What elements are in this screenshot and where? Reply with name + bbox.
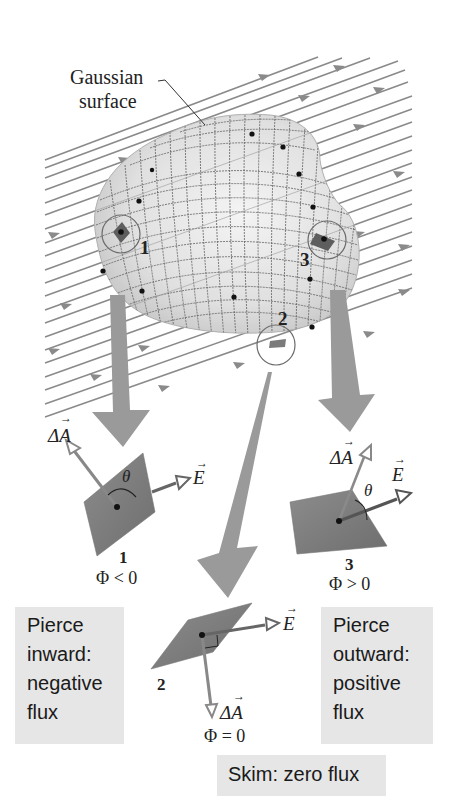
caption-pierce-inward: Pierce inward: negative flux [15, 607, 124, 744]
svg-text:→: → [343, 434, 355, 448]
caption-line: Skim: zero flux [228, 760, 386, 789]
caption-line: outward: [333, 640, 433, 669]
svg-text:→: → [233, 689, 245, 703]
inset-1-angle-label: θ [122, 467, 130, 486]
caption-line: flux [333, 698, 433, 727]
inset-2-area-vector-label: ΔA [219, 702, 243, 723]
caption-line: flux [27, 698, 124, 727]
inset-2 [151, 603, 279, 717]
caption-pierce-outward: Pierce outward: positive flux [321, 607, 433, 744]
inset-1-field-label: E [192, 467, 205, 488]
caption-skim-zero-flux: Skim: zero flux [217, 755, 386, 796]
surface-label-line1: Gaussian [70, 66, 143, 88]
inset-1-flux: Φ < 0 [96, 568, 137, 588]
inset-3-number: 3 [345, 555, 354, 574]
svg-text:→: → [196, 456, 208, 470]
region-3-label: 3 [300, 249, 310, 270]
svg-text:→: → [286, 601, 298, 615]
inset-1 [66, 440, 190, 556]
caption-line: Pierce [333, 611, 433, 640]
surface-label-line2: surface [79, 90, 137, 112]
inset-1-number: 1 [119, 548, 128, 567]
inset-2-field-label: E [282, 613, 295, 634]
caption-line: positive [333, 669, 433, 698]
inset-3-flux: Φ > 0 [329, 574, 370, 594]
caption-line: Pierce [27, 611, 124, 640]
projection-arrows [92, 290, 375, 598]
inset-3-field-label: E [391, 464, 404, 485]
svg-text:→: → [394, 452, 406, 466]
inset-2-flux: Φ = 0 [204, 726, 245, 746]
inset-3-angle-label: θ [364, 481, 372, 500]
region-1-label: 1 [140, 237, 150, 258]
region-2-label: 2 [278, 308, 288, 329]
inset-2-number: 2 [157, 675, 166, 694]
inset-3-area-vector-label: ΔA [329, 447, 353, 468]
svg-text:→: → [60, 411, 72, 425]
inset-1-area-vector-label: ΔA [47, 425, 71, 446]
caption-line: inward: [27, 640, 124, 669]
caption-line: negative [27, 669, 124, 698]
gaussian-surface [45, 96, 412, 365]
